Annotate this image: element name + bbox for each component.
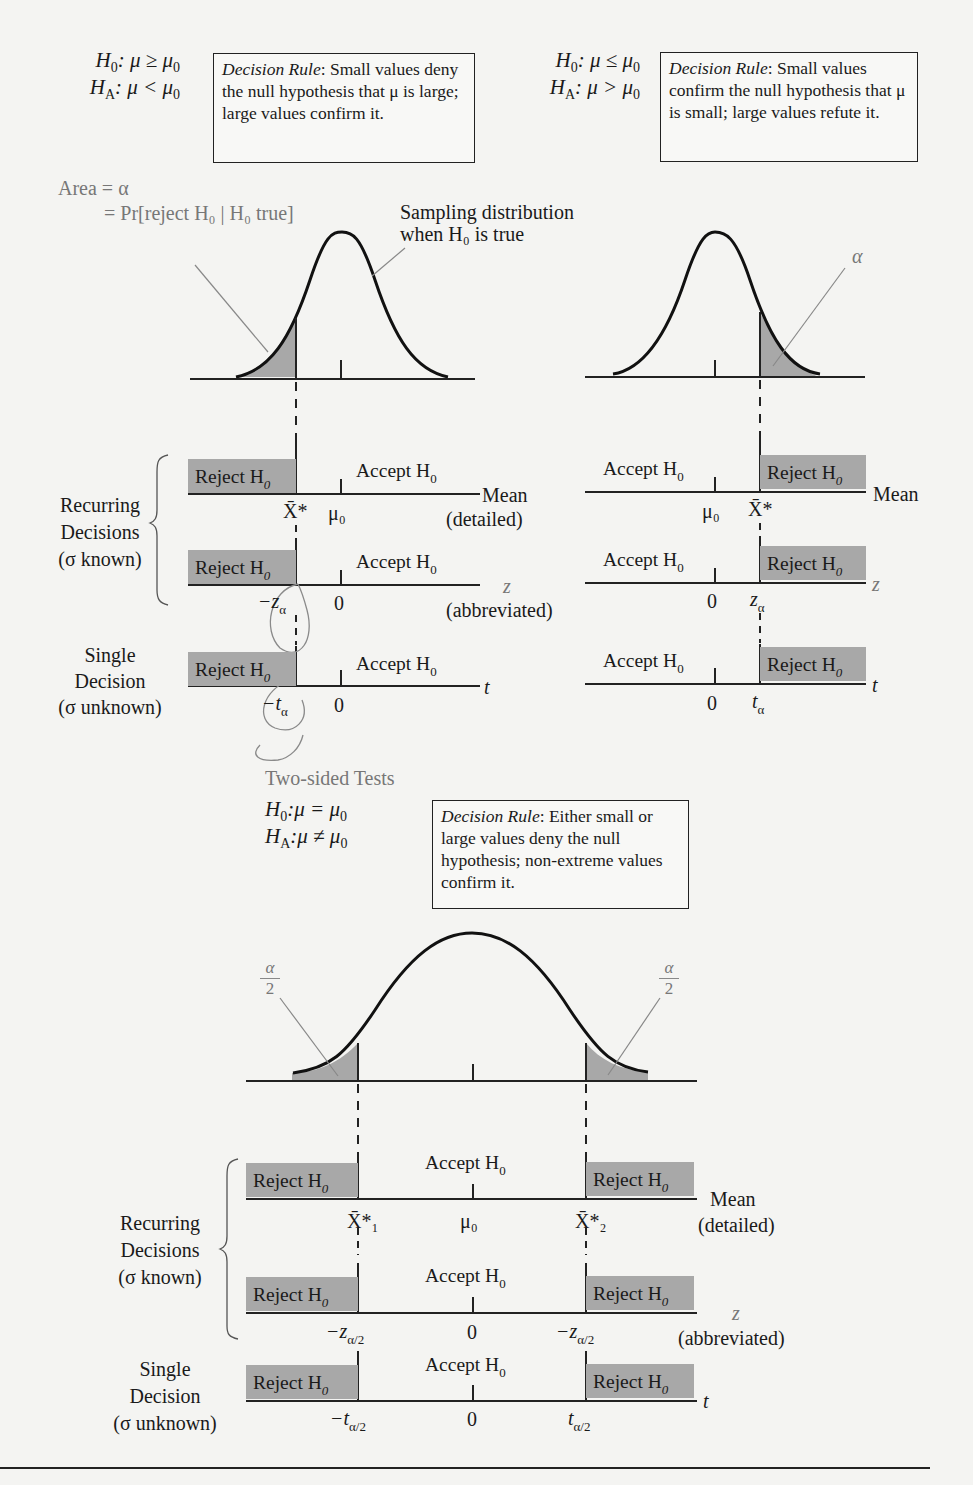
right-mean-accept-region: Accept H0: [603, 458, 684, 480]
left-mean-axis-note: (detailed): [446, 508, 523, 530]
left-t-zero-tick: 0: [334, 694, 344, 716]
two-sided-z-axis-label: z: [732, 1302, 740, 1324]
two-sided-t-accept: Accept H0: [425, 1354, 506, 1376]
two-sided-z-left-reject: Reject H0: [246, 1277, 358, 1311]
right-z-alpha-tick: zα: [750, 588, 765, 613]
left-z-axis-note: (abbreviated): [446, 599, 553, 621]
left-neg-t-alpha-tick: −tα: [262, 692, 288, 717]
two-sided-mean-axis-note: (detailed): [698, 1214, 775, 1236]
right-mean-reject-region: Reject H0: [760, 455, 866, 489]
right-normal-curve: [585, 232, 865, 455]
right-t-accept-region: Accept H0: [603, 650, 684, 672]
two-sided-t-right-reject: Reject H0: [586, 1364, 694, 1398]
two-sided-mean-axis-label: Mean: [710, 1188, 756, 1210]
left-z-reject-region: Reject H0: [188, 550, 296, 584]
right-hypotheses: H0: μ ≤ μ0 HA: μ > μ0: [500, 48, 640, 102]
left-xbar-star-tick: X̄*: [283, 500, 307, 522]
right-xbar-star-tick: X̄*: [748, 498, 772, 520]
two-sided-t-axis-label: t: [703, 1390, 709, 1412]
left-t-reject-region: Reject H0: [188, 652, 296, 686]
two-sided-title: Two-sided Tests: [265, 767, 395, 789]
left-z-zero-tick: 0: [334, 592, 344, 614]
two-sided-normal-curve: [246, 933, 697, 1160]
left-mu0-tick: μ₀: [328, 502, 346, 524]
left-t-axis-label: t: [484, 676, 490, 698]
left-normal-curve: [190, 232, 475, 455]
two-sided-decision-rule-box: Decision Rule: Either small or large val…: [432, 800, 689, 909]
area-probability-label: = Pr[reject H₀ | H₀ true]: [104, 202, 294, 224]
right-t-reject-region: Reject H0: [760, 647, 866, 681]
t-alpha-half-tick: tα/2: [568, 1407, 591, 1432]
two-sided-recurring-decisions-label: Recurring Decisions (σ known): [100, 1210, 220, 1291]
neg-z-alpha-half-left-tick: −zα/2: [326, 1320, 364, 1345]
sampling-distribution-label: Sampling distribution when H₀ is true: [400, 201, 574, 245]
right-mean-axis-label: Mean: [873, 483, 919, 505]
right-alpha-label: α: [852, 245, 863, 267]
left-z-axis-label: z: [503, 575, 511, 597]
right-z-accept-region: Accept H0: [603, 549, 684, 571]
neg-z-alpha-half-right-tick: −zα/2: [556, 1320, 594, 1345]
left-mean-reject-region: Reject H0: [188, 459, 296, 493]
two-sided-mean-left-reject: Reject H0: [246, 1163, 358, 1197]
right-tail-alpha-half-label: α 2: [659, 958, 679, 999]
left-t-accept-region: Accept H0: [356, 653, 437, 675]
left-hypotheses: H0: μ ≥ μ0 HA: μ < μ0: [40, 48, 180, 102]
right-z-axis-label: z: [872, 573, 880, 595]
left-tail-alpha-half-label: α 2: [260, 958, 280, 999]
right-t-alpha-tick: tα: [752, 690, 764, 715]
left-mean-accept-region: Accept H0: [356, 460, 437, 482]
left-single-decision-label: Single Decision (σ unknown): [40, 642, 180, 720]
left-z-accept-region: Accept H0: [356, 551, 437, 573]
right-t-axis-label: t: [872, 674, 878, 696]
right-mu0-tick: μ₀: [702, 500, 720, 522]
left-decision-rule-box: Decision Rule: Small values deny the nul…: [213, 53, 475, 163]
two-sided-z-axis-note: (abbreviated): [678, 1327, 785, 1349]
xbar2-star-tick: X̄*₂: [575, 1210, 606, 1232]
left-neg-z-alpha-tick: −zα: [258, 590, 286, 615]
right-t-zero-tick: 0: [707, 692, 717, 714]
left-recurring-decisions-label: Recurring Decisions (σ known): [40, 492, 160, 573]
two-sided-single-decision-label: Single Decision (σ unknown): [95, 1356, 235, 1437]
two-sided-t-left-reject: Reject H0: [246, 1365, 358, 1399]
right-decision-rule-box: Decision Rule: Small values confirm the …: [660, 52, 918, 162]
right-z-reject-region: Reject H0: [760, 546, 866, 580]
two-sided-mean-right-reject: Reject H0: [586, 1162, 694, 1196]
left-mean-axis-label: Mean: [482, 484, 528, 506]
neg-t-alpha-half-tick: −tα/2: [330, 1407, 366, 1432]
two-sided-z-right-reject: Reject H0: [586, 1276, 694, 1310]
two-sided-z-zero-tick: 0: [467, 1321, 477, 1343]
two-sided-mu0-tick: μ₀: [460, 1210, 478, 1232]
two-sided-t-zero-tick: 0: [467, 1408, 477, 1430]
area-alpha-label: Area = α: [58, 177, 129, 199]
right-z-zero-tick: 0: [707, 590, 717, 612]
two-sided-hypotheses: H0:μ = μ0 HA:μ ≠ μ0: [265, 797, 395, 851]
xbar1-star-tick: X̄*₁: [347, 1210, 378, 1232]
two-sided-z-accept: Accept H0: [425, 1265, 506, 1287]
two-sided-mean-accept: Accept H0: [425, 1152, 506, 1174]
